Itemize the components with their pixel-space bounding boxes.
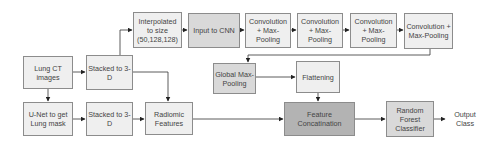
node-label: Convolution + Max-Pooling [299, 17, 341, 44]
node-label: Interpolated to size (50,128,128) [135, 17, 180, 44]
node-stacked-3d-1: Stacked to 3-D [86, 55, 133, 90]
node-label: Feature Concatination [286, 110, 353, 128]
node-conv-maxpool-2: Convolution + Max-Pooling [297, 13, 343, 48]
node-label: Stacked to 3-D [88, 64, 131, 82]
node-conv-maxpool-4: Convolution + Max-Pooling [404, 13, 453, 49]
node-label: Random Forest Classifier [388, 106, 432, 133]
node-label: Stacked to 3-D [88, 110, 131, 128]
node-global-max-pooling: Global Max-Pooling [213, 63, 256, 94]
node-label: Convolution + Max-Pooling [352, 17, 395, 44]
node-label: U-Net to get Lung mask [25, 110, 71, 128]
node-label: Global Max-Pooling [215, 70, 254, 88]
node-conv-maxpool-1: Convolution + Max-Pooling [245, 13, 291, 48]
node-interpolated: Interpolated to size (50,128,128) [133, 12, 182, 48]
node-lung-ct-images: Lung CT images [23, 56, 73, 89]
node-output-class: Output Class [448, 110, 482, 128]
node-label: Convolution + Max-Pooling [406, 22, 451, 40]
node-random-forest-classifier: Random Forest Classifier [386, 101, 434, 137]
node-label: Flattening [302, 73, 334, 82]
node-stacked-3d-2: Stacked to 3-D [86, 102, 133, 136]
node-unet-lung-mask: U-Net to get Lung mask [23, 102, 73, 136]
node-label: Convolution + Max-Pooling [247, 17, 289, 44]
node-input-to-cnn: Input to CNN [188, 13, 240, 48]
node-feature-concatenation: Feature Concatination [284, 102, 355, 136]
node-label: Lung CT images [25, 64, 71, 82]
node-conv-maxpool-3: Convolution + Max-Pooling [350, 13, 397, 48]
node-label: Input to CNN [193, 26, 235, 35]
node-flattening: Flattening [296, 61, 340, 93]
node-radiomic-features: Radiomic Features [145, 102, 193, 135]
node-label: Radiomic Features [147, 110, 191, 128]
node-label: Output Class [454, 110, 476, 128]
